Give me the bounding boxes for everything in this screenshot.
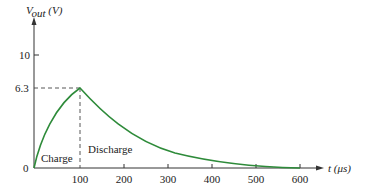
y-tick-label-10: 10 (19, 49, 31, 61)
x-axis-arrow-icon (316, 166, 324, 171)
charge-label: Charge (41, 152, 73, 164)
discharge-label: Discharge (88, 143, 133, 155)
x-tick-label-100: 100 (72, 173, 89, 185)
y-tick-label-6.3: 6.3 (15, 82, 29, 94)
y-tick-label-0: 0 (23, 162, 29, 174)
x-tick-label-300: 300 (160, 173, 177, 185)
x-axis-title: t (μs) (328, 162, 351, 175)
x-tick-label-500: 500 (248, 173, 265, 185)
x-tick-label-200: 200 (116, 173, 133, 185)
voltage-chart: Vout (V) 10 6.3 0 100 200 300 400 500 60… (0, 0, 372, 192)
x-tick-label-400: 400 (204, 173, 221, 185)
x-tick-label-600: 600 (292, 173, 309, 185)
vout-curve (34, 88, 300, 168)
y-axis-title: Vout (V) (26, 4, 63, 19)
